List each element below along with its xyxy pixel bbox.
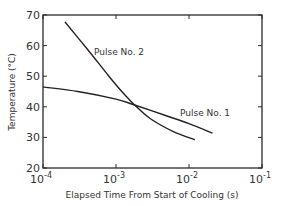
y-tick-labels: 203040506070 <box>26 9 40 175</box>
data-series <box>43 22 213 140</box>
x-tick-label: 10-1 <box>249 171 271 186</box>
annotation-pulse-2: Pulse No. 2 <box>94 47 144 57</box>
y-tick-label: 30 <box>26 131 40 144</box>
y-tick-label: 70 <box>26 9 40 22</box>
y-tick-label: 40 <box>26 101 40 114</box>
series-line-pulse-2 <box>65 22 195 140</box>
y-axis-title: Temperature (°C) <box>7 53 17 132</box>
x-axis-title: Elapsed Time From Start of Cooling (s) <box>66 190 239 200</box>
y-tick-label: 60 <box>26 40 40 53</box>
x-tick-label: 10-4 <box>30 171 52 186</box>
temperature-chart: 203040506070 10-410-310-210-1 Pulse No. … <box>0 0 281 206</box>
x-tick-label: 10-2 <box>176 171 198 186</box>
y-tick-label: 50 <box>26 70 40 83</box>
x-tick-label: 10-3 <box>103 171 125 186</box>
x-tick-labels: 10-410-310-210-1 <box>30 171 271 186</box>
annotation-pulse-1: Pulse No. 1 <box>180 108 230 118</box>
